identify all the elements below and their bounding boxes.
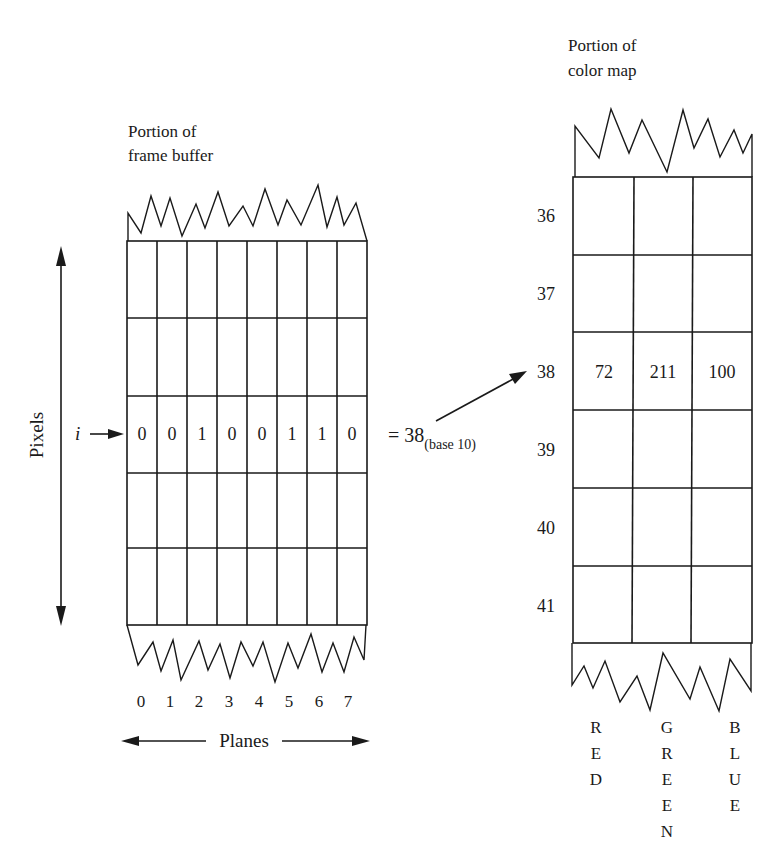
color-map-bottom-torn-edge — [572, 643, 751, 711]
column-label-red: R E D — [590, 718, 602, 789]
color-map-row-indices: 36 37 38 39 40 41 — [537, 206, 555, 616]
bit-plane-6: 1 — [318, 424, 327, 444]
bit-plane-0: 0 — [138, 424, 147, 444]
decimal-result-value: = 38 — [388, 424, 424, 446]
color-map-index-40: 40 — [537, 518, 555, 538]
color-map-index-41: 41 — [537, 596, 555, 616]
svg-text:E: E — [730, 796, 740, 815]
bit-plane-3: 0 — [228, 424, 237, 444]
plane-numbers: 0 1 2 3 4 5 6 7 — [137, 692, 353, 711]
column-label-blue: B L U E — [729, 718, 741, 815]
pixel-index-label: i — [75, 423, 80, 444]
color-map-entry-38: 72 211 100 — [595, 362, 736, 382]
planes-axis-label: Planes — [219, 730, 269, 751]
plane-number-6: 6 — [315, 692, 324, 711]
frame-buffer-title-line1: Portion of — [128, 122, 197, 141]
color-map-index-36: 36 — [537, 206, 555, 226]
frame-buffer-color-map-diagram: Portion of frame buffer 0 0 1 0 0 1 1 0 — [0, 0, 784, 859]
pixels-axis-arrow-icon — [56, 246, 66, 626]
pixels-axis-label: Pixels — [26, 412, 47, 458]
svg-text:U: U — [729, 770, 741, 789]
lookup-arrow-icon — [436, 371, 527, 421]
color-map-index-39: 39 — [537, 440, 555, 460]
bit-plane-2: 1 — [198, 424, 207, 444]
color-map-title-line2: color map — [568, 61, 636, 80]
color-map-index-37: 37 — [537, 284, 555, 304]
svg-text:R: R — [661, 744, 673, 763]
svg-text:E: E — [662, 770, 672, 789]
svg-text:R: R — [590, 718, 602, 737]
green-value: 211 — [650, 362, 676, 382]
bit-plane-7: 0 — [348, 424, 357, 444]
red-value: 72 — [595, 362, 613, 382]
decimal-result-base: (base 10) — [424, 437, 476, 453]
blue-value: 100 — [709, 362, 736, 382]
plane-number-1: 1 — [166, 692, 175, 711]
bit-plane-5: 1 — [288, 424, 297, 444]
svg-text:E: E — [662, 796, 672, 815]
svg-text:L: L — [730, 744, 740, 763]
bit-plane-4: 0 — [258, 424, 267, 444]
plane-number-2: 2 — [195, 692, 204, 711]
color-map-top-torn-edge — [575, 109, 752, 177]
svg-text:D: D — [590, 770, 602, 789]
frame-buffer-top-torn-edge — [128, 185, 367, 241]
column-label-green: G R E E N — [661, 718, 673, 841]
plane-number-7: 7 — [344, 692, 353, 711]
pixel-pointer-arrow-icon — [90, 429, 124, 439]
svg-text:G: G — [661, 718, 673, 737]
color-map: Portion of color map 36 37 38 39 40 41 7… — [537, 36, 752, 841]
decimal-result: = 38(base 10) — [388, 424, 476, 453]
color-map-title-line1: Portion of — [568, 36, 637, 55]
svg-text:B: B — [729, 718, 740, 737]
plane-number-0: 0 — [137, 692, 146, 711]
frame-buffer: Portion of frame buffer 0 0 1 0 0 1 1 0 — [26, 122, 476, 751]
svg-text:N: N — [661, 822, 673, 841]
frame-buffer-bottom-torn-edge — [127, 625, 366, 682]
plane-number-4: 4 — [255, 692, 264, 711]
plane-number-3: 3 — [225, 692, 234, 711]
color-map-index-38: 38 — [537, 362, 555, 382]
svg-text:E: E — [591, 744, 601, 763]
frame-buffer-title-line2: frame buffer — [128, 146, 213, 165]
plane-number-5: 5 — [285, 692, 294, 711]
bit-plane-1: 0 — [168, 424, 177, 444]
